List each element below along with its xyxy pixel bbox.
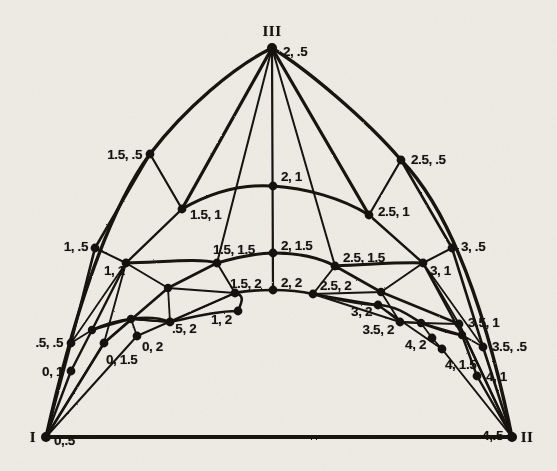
- point-label-n_15_15: 1.5, 1.5: [213, 243, 255, 257]
- point-label-n_3_05: 3, .5: [461, 240, 485, 254]
- point-label-n_4_1: 4, 1: [486, 370, 507, 384]
- point-label-n_1_05: 1, .5: [64, 240, 88, 254]
- coordinate-net-drawing: [0, 0, 557, 471]
- point-label-n_35_05: 3.5, .5: [492, 340, 527, 354]
- point-label-n_15_1: 1.5, 1: [190, 208, 221, 222]
- point-label-n_35_1: 3.5, 1: [468, 316, 499, 330]
- point-label-n_05_05: .5, .5: [35, 336, 63, 350]
- point-label-n_15_2: 1.5, 2: [230, 277, 261, 291]
- point-label-n_25_1: 2.5, 1: [378, 205, 409, 219]
- point-label-n_25_2: 2.5, 2: [320, 279, 351, 293]
- point-label-n_0_05: 0,.5: [54, 434, 75, 448]
- point-label-n_3_1: 3, 1: [430, 264, 451, 278]
- point-label-n_0_1: 0, 1: [42, 365, 63, 379]
- point-label-n_25_15: 2.5, 1.5: [343, 251, 385, 265]
- point-label-n_4_2: 4, 2: [405, 338, 426, 352]
- point-label-n_3_2: 3, 2: [351, 305, 372, 319]
- point-label-n_15_05: 1.5, .5: [107, 148, 142, 162]
- point-label-n_0_15: 0, 1.5: [106, 353, 137, 367]
- vertex-III: III: [262, 24, 281, 39]
- point-label-n_1_2: 1, 2: [211, 313, 232, 327]
- point-label-n_0_2: 0, 2: [142, 340, 163, 354]
- point-label-n_4_15: 4, 1.5: [445, 358, 476, 372]
- point-label-n_2_2: 2, 2: [281, 276, 302, 290]
- vertex-II: II: [521, 430, 534, 445]
- point-label-n_2_15: 2, 1.5: [281, 239, 312, 253]
- figure-canvas: 0,.54,.52, .5.5, .50, 10, 1.50, 21, .51,…: [0, 0, 557, 471]
- vertex-I: I: [30, 430, 36, 445]
- point-label-n_1_1: 1, 1: [104, 264, 125, 278]
- point-label-n_35_2: 3.5, 2: [363, 323, 394, 337]
- point-label-n_05_2: .5, 2: [172, 322, 196, 336]
- point-label-n_25_05: 2.5, .5: [411, 153, 446, 167]
- point-label-n_2_1: 2, 1: [281, 170, 302, 184]
- point-label-n_2_05: 2, .5: [283, 45, 307, 59]
- point-label-n_4_05: 4,.5: [482, 429, 503, 443]
